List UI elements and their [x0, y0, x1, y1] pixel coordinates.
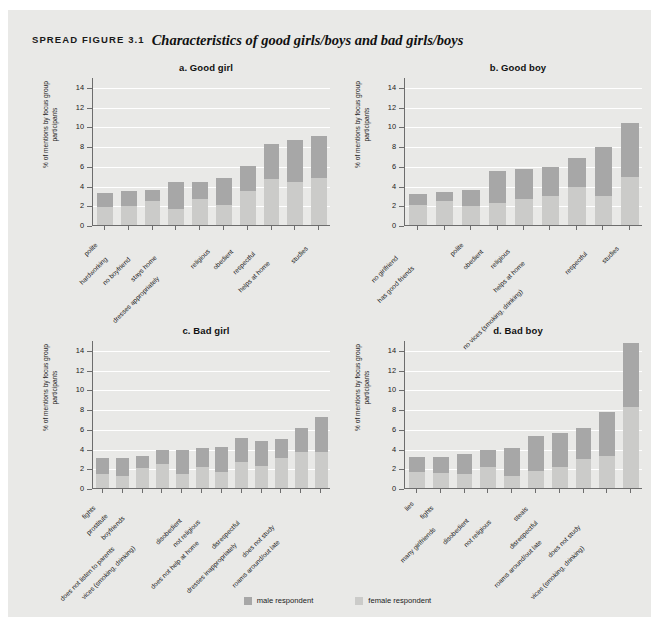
- y-axis-tick: [87, 206, 92, 207]
- bar-segment-female: [264, 179, 280, 225]
- bar-stack[interactable]: [275, 340, 288, 488]
- bar-stack[interactable]: [480, 340, 496, 488]
- bar-stack[interactable]: [433, 340, 449, 488]
- bar-segment-male: [264, 144, 280, 179]
- bar-segment-female: [116, 476, 129, 488]
- bar-stack[interactable]: [409, 340, 425, 488]
- y-axis-title: % of mentions by focus group participant…: [354, 333, 371, 443]
- y-axis-tick: [399, 371, 404, 372]
- bar-segment-male: [576, 428, 592, 460]
- x-axis-label: respectful: [563, 250, 588, 275]
- bar-stack[interactable]: [462, 77, 479, 225]
- y-axis-tick-label: 0: [374, 222, 396, 229]
- y-axis-tick: [87, 450, 92, 451]
- bar-stack[interactable]: [196, 340, 209, 488]
- y-axis-tick: [399, 127, 404, 128]
- bar-segment-male: [621, 123, 638, 176]
- bar-segment-female: [240, 191, 256, 225]
- bar-stack[interactable]: [255, 340, 268, 488]
- bar-stack[interactable]: [623, 340, 639, 488]
- plot-area: 02468101214: [92, 78, 330, 226]
- bar-stack[interactable]: [436, 77, 453, 225]
- x-axis-labels: no girlfriendhas good friendspoliteobedi…: [405, 228, 643, 318]
- bar-stack[interactable]: [136, 340, 149, 488]
- bar-segment-male: [542, 167, 559, 197]
- bar-segment-male: [216, 178, 232, 206]
- bar-segment-male: [552, 433, 568, 468]
- legend-swatch-male-icon: [244, 597, 252, 605]
- bar-segment-male: [311, 136, 327, 177]
- bar-stack[interactable]: [287, 77, 303, 225]
- y-axis-tick: [399, 450, 404, 451]
- bar-stack[interactable]: [489, 77, 506, 225]
- bar-segment-female: [255, 466, 268, 488]
- bar-stack[interactable]: [216, 77, 232, 225]
- bar-stack[interactable]: [311, 77, 327, 225]
- bar-stack[interactable]: [542, 77, 559, 225]
- bar-stack[interactable]: [595, 77, 612, 225]
- bar-stack[interactable]: [145, 77, 161, 225]
- bar-stack[interactable]: [215, 340, 228, 488]
- bar-segment-female: [528, 471, 544, 488]
- y-axis-tick-label: 10: [374, 123, 396, 130]
- bar-stack[interactable]: [621, 77, 638, 225]
- bar-segment-female: [599, 456, 615, 488]
- bar-segment-female: [295, 452, 308, 488]
- y-axis-tick: [87, 351, 92, 352]
- bar-stack[interactable]: [97, 77, 113, 225]
- bar-stack[interactable]: [192, 77, 208, 225]
- bar-stack[interactable]: [315, 340, 328, 488]
- bar-stack[interactable]: [599, 340, 615, 488]
- bar-segment-female: [215, 472, 228, 488]
- bar-segment-male: [196, 448, 209, 468]
- y-axis-title: % of mentions by focus group participant…: [42, 70, 59, 180]
- bar-stack[interactable]: [409, 77, 426, 225]
- bar-stack[interactable]: [168, 77, 184, 225]
- bar-stack[interactable]: [295, 340, 308, 488]
- bar-stack[interactable]: [116, 340, 129, 488]
- bar-segment-male: [489, 171, 506, 204]
- y-axis-tick: [399, 390, 404, 391]
- x-axis-label: obedient: [462, 248, 485, 271]
- legend-item-male: male respondent: [244, 596, 314, 605]
- y-axis-tick-label: 10: [62, 123, 84, 130]
- y-axis-tick-label: 0: [374, 485, 396, 492]
- bar-segment-female: [542, 196, 559, 225]
- chart-title: a. Good girl: [32, 62, 352, 73]
- x-axis-labels: liesfightsmany girlfriendsdisobedientnot…: [405, 491, 643, 581]
- bar-stack[interactable]: [176, 340, 189, 488]
- bar-stack[interactable]: [156, 340, 169, 488]
- bar-stack[interactable]: [121, 77, 137, 225]
- bar-stack[interactable]: [552, 340, 568, 488]
- bar-stack[interactable]: [96, 340, 109, 488]
- bar-stack[interactable]: [235, 340, 248, 488]
- bar-stack[interactable]: [515, 77, 532, 225]
- bar-segment-female: [216, 205, 232, 225]
- bar-stack[interactable]: [576, 340, 592, 488]
- bar-segment-female: [275, 458, 288, 488]
- y-axis-tick-label: 8: [374, 406, 396, 413]
- x-axis-label: steals: [512, 505, 529, 522]
- y-axis-tick-label: 10: [62, 386, 84, 393]
- y-axis-tick: [399, 469, 404, 470]
- bar-stack[interactable]: [528, 340, 544, 488]
- bar-stack[interactable]: [457, 340, 473, 488]
- bar-stack[interactable]: [568, 77, 585, 225]
- bar-segment-female: [315, 452, 328, 489]
- bar-segment-female: [568, 187, 585, 225]
- y-axis-title: % of mentions by focus group participant…: [42, 333, 59, 443]
- legend-label-female: female respondent: [368, 596, 431, 605]
- x-axis-label: many girlfriends: [399, 526, 437, 564]
- chart-title: d. Bad boy: [344, 325, 659, 336]
- bar-stack[interactable]: [240, 77, 256, 225]
- bar-segment-male: [192, 182, 208, 200]
- bar-stack[interactable]: [504, 340, 520, 488]
- bar-segment-male: [136, 456, 149, 468]
- legend-item-female: female respondent: [355, 596, 431, 605]
- bar-stack[interactable]: [264, 77, 280, 225]
- x-axis-label: roams around/out late: [493, 538, 543, 588]
- bar-segment-female: [168, 209, 184, 225]
- bar-segment-male: [480, 450, 496, 468]
- bar-segment-male: [255, 441, 268, 467]
- y-axis-tick-label: 14: [374, 84, 396, 91]
